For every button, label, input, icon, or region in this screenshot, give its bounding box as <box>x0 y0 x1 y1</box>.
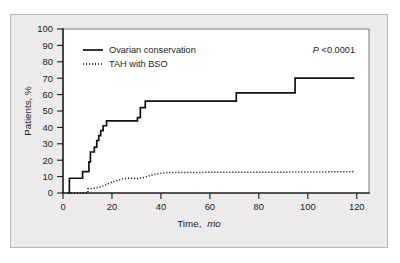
y-tick-label: 70 <box>43 73 53 84</box>
p-value-annotation: P <0.0001 <box>313 45 355 55</box>
survival-curve-chart: 100 90 80 70 60 50 40 30 20 10 0 0 20 40… <box>11 15 387 247</box>
y-tick-label: 80 <box>43 56 53 67</box>
x-axis-title-main: Time, <box>177 218 201 229</box>
x-tick-label: 100 <box>300 201 316 212</box>
y-tick-label: 0 <box>48 187 53 198</box>
y-tick-label: 100 <box>37 23 53 34</box>
x-tick-label: 0 <box>60 201 65 212</box>
x-tick-label: 80 <box>254 201 264 212</box>
x-tick-label: 20 <box>107 201 117 212</box>
p-value-symbol: P <box>313 45 320 55</box>
y-tick-label: 60 <box>43 89 53 100</box>
legend-label-tah-with-bso: TAH with BSO <box>109 59 168 69</box>
x-tick-label: 40 <box>156 201 166 212</box>
legend-label-ovarian-conservation: Ovarian conservation <box>109 45 196 55</box>
y-tick-label: 30 <box>43 138 53 149</box>
y-tick-label: 10 <box>43 171 53 182</box>
x-axis-title: Time, mo <box>177 218 221 229</box>
figure-panel: 100 90 80 70 60 50 40 30 20 10 0 0 20 40… <box>10 14 388 248</box>
y-tick-label: 40 <box>43 122 53 133</box>
y-tick-label: 50 <box>43 105 53 116</box>
y-axis-ticks <box>57 29 63 193</box>
x-tick-label: 60 <box>205 201 215 212</box>
p-value-number: <0.0001 <box>322 45 355 55</box>
x-axis-ticks <box>63 193 357 199</box>
y-tick-label: 90 <box>43 40 53 51</box>
x-tick-label: 120 <box>349 201 365 212</box>
x-axis-title-units: mo <box>207 218 221 229</box>
y-axis-title: Patients, % <box>22 86 33 136</box>
y-tick-label: 20 <box>43 155 53 166</box>
